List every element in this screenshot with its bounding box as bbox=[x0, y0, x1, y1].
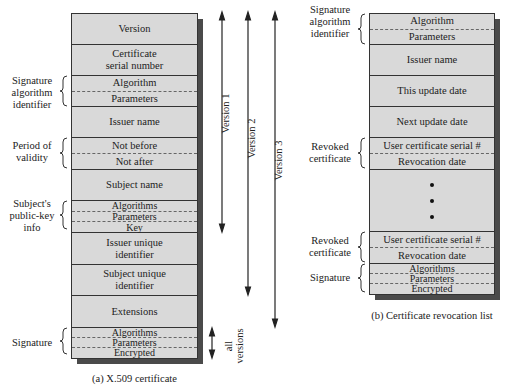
crl-label-signature: Signature bbox=[302, 272, 358, 284]
field-label: This update date bbox=[370, 76, 494, 106]
label-period-of-validity: Period of validity bbox=[4, 140, 60, 164]
field-subject-name: Subject name bbox=[72, 170, 197, 201]
crl-field-signature-algorithm: Algorithm Parameters bbox=[370, 14, 494, 45]
label-signature: Signature bbox=[4, 337, 60, 349]
crl-label-revoked-certificate-1: Revoked certificate bbox=[302, 141, 358, 165]
field-label: Subject name bbox=[72, 170, 197, 200]
field-issuer-unique-id: Issuer unique identifier bbox=[72, 233, 197, 265]
brace-icon bbox=[358, 232, 365, 262]
field-label: Parameters bbox=[370, 30, 494, 45]
field-extensions: Extensions bbox=[72, 296, 197, 328]
field-label: Algorithm bbox=[370, 14, 494, 30]
field-public-key-info: Algorithms Parameters Key bbox=[72, 201, 197, 233]
ellipsis-dot-icon bbox=[430, 183, 434, 187]
field-validity: Not before Not after bbox=[72, 138, 197, 170]
label-signature-algorithm-identifier: Signature algorithm identifier bbox=[4, 75, 60, 111]
caption-crl: (b) Certificate revocation list bbox=[366, 310, 498, 321]
brace-icon bbox=[358, 14, 365, 44]
crl-label-revoked-certificate-2: Revoked certificate bbox=[302, 235, 358, 259]
field-label: Subject unique identifier bbox=[72, 265, 197, 295]
field-label: Extensions bbox=[72, 296, 197, 327]
brace-icon bbox=[60, 201, 67, 229]
version-3-label: Version 3 bbox=[273, 136, 284, 186]
field-label: Issuer name bbox=[72, 107, 197, 137]
crl-field-this-update: This update date bbox=[370, 76, 494, 107]
ellipsis-dot-icon bbox=[430, 199, 434, 203]
field-label: Revocation date bbox=[370, 248, 494, 263]
all-versions-label: all versions bbox=[223, 326, 245, 366]
field-label: Certificate serial number bbox=[72, 45, 197, 75]
ellipsis-dot-icon bbox=[430, 215, 434, 219]
field-label: Revocation date bbox=[370, 154, 494, 169]
field-label: Parameters bbox=[72, 212, 197, 223]
crl-revoked-certificate-2: User certificate serial # Revocation dat… bbox=[370, 232, 494, 264]
caption-x509: (a) X.509 certificate bbox=[71, 373, 198, 384]
brace-icon bbox=[60, 76, 67, 106]
brace-icon bbox=[60, 138, 67, 168]
field-label: Algorithm bbox=[72, 76, 197, 92]
version-2-label: Version 2 bbox=[246, 114, 257, 164]
crl-field-issuer-name: Issuer name bbox=[370, 45, 494, 76]
field-serial-number: Certificate serial number bbox=[72, 45, 197, 76]
field-label: Not before bbox=[72, 138, 197, 154]
field-label: Issuer name bbox=[370, 45, 494, 75]
crl-field-next-update: Next update date bbox=[370, 107, 494, 138]
field-subject-unique-id: Subject unique identifier bbox=[72, 265, 197, 296]
field-label: Not after bbox=[72, 154, 197, 169]
field-label: Key bbox=[72, 222, 197, 232]
field-label: Next update date bbox=[370, 107, 494, 137]
field-label: User certificate serial # bbox=[370, 232, 494, 248]
field-label: Encrypted bbox=[370, 284, 494, 293]
field-issuer-name: Issuer name bbox=[72, 107, 197, 138]
crl-label-signature-algorithm-identifier: Signature algorithm identifier bbox=[302, 4, 358, 40]
field-signature-algorithm: Algorithm Parameters bbox=[72, 76, 197, 107]
crl-structure: Algorithm Parameters Issuer name This up… bbox=[369, 13, 495, 295]
crl-revoked-certificate-1: User certificate serial # Revocation dat… bbox=[370, 138, 494, 170]
brace-icon bbox=[358, 264, 365, 292]
field-signature: Algorithms Parameters Encrypted bbox=[72, 328, 197, 357]
version-1-label: Version 1 bbox=[220, 89, 231, 139]
x509-certificate-structure: Version Certificate serial number Algori… bbox=[71, 13, 198, 359]
field-label: User certificate serial # bbox=[370, 138, 494, 154]
crl-ellipsis bbox=[370, 170, 494, 232]
brace-icon bbox=[358, 138, 365, 168]
field-label: Parameters bbox=[72, 92, 197, 107]
brace-icon bbox=[60, 328, 67, 354]
field-version: Version bbox=[72, 14, 197, 45]
label-public-key-info: Subject's public-key info bbox=[4, 198, 60, 234]
field-label: Version bbox=[72, 14, 197, 44]
crl-field-signature: Algorithms Parameters Encrypted bbox=[370, 264, 494, 293]
field-label: Issuer unique identifier bbox=[72, 233, 197, 264]
field-label: Encrypted bbox=[72, 348, 197, 357]
